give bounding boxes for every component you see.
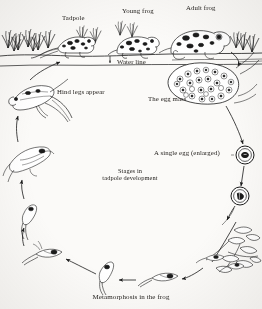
arrow-adult-to-eggmass xyxy=(231,52,239,66)
center-note: Stages in tadpole development xyxy=(86,167,174,182)
figure-caption: Metamorphosis in the frog xyxy=(41,293,221,301)
stage-adult-frog xyxy=(159,31,230,60)
label-the-egg-mass: The egg mass xyxy=(148,95,187,103)
arrow-plant-to-early-tadpole xyxy=(182,268,203,279)
stage-dividing-egg xyxy=(231,187,249,205)
grass-right xyxy=(230,32,259,52)
label-hind-legs-appear: Hind legs appear xyxy=(57,88,105,96)
stage-four-legged-tadpole xyxy=(3,147,54,182)
diagram-artwork xyxy=(0,0,262,309)
label-water-line: Water line xyxy=(117,58,146,66)
arrow-eggmass-to-egg xyxy=(226,106,243,144)
arrow-fourlegged-to-hindlegs xyxy=(17,116,19,142)
label-adult-frog: Adult frog xyxy=(186,4,216,12)
center-note-line1: Stages in xyxy=(86,167,174,174)
stage-tadpole-small xyxy=(22,205,37,240)
stage-a-single-egg xyxy=(236,146,254,164)
label-tadpole: Tadpole xyxy=(62,14,85,22)
stage-early-tadpole xyxy=(138,273,178,287)
label-young-frog: Young frog xyxy=(122,7,154,15)
stage-swimming-tadpole xyxy=(99,262,113,295)
arrow-egg-to-dividing xyxy=(241,166,244,186)
stage-tadpole-froglet xyxy=(31,37,95,58)
stage-tadpole-with-gills xyxy=(22,241,62,265)
arrow-hindlegs-to-froglet xyxy=(30,62,60,80)
arrow-small-to-fourlegged xyxy=(22,180,24,199)
frog-metamorphosis-diagram: Tadpole Young frog Adult frog Water line… xyxy=(0,0,262,309)
center-note-line2: tadpole development xyxy=(86,174,174,181)
stage-hatchlings-on-plant xyxy=(196,222,261,272)
label-a-single-egg: A single egg (enlarged) xyxy=(154,149,220,157)
arrow-swimming-to-gilled xyxy=(66,259,96,274)
grass-left xyxy=(2,29,55,51)
